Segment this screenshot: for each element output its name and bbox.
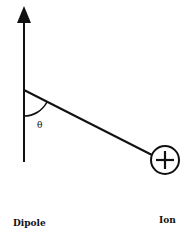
dipole-label: Dipole [13,218,46,228]
dipole-ion-diagram [0,0,189,238]
dipole-ion-connector [24,90,152,155]
ion-label: Ion [159,215,176,225]
arrowhead-icon [17,6,31,23]
angle-theta-label: θ [37,120,42,130]
angle-arc [24,102,47,116]
